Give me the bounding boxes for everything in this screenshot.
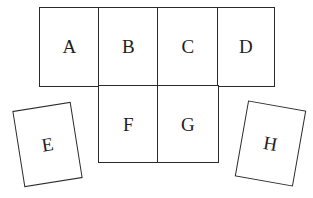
- panel-d: D: [217, 7, 275, 87]
- panel-g-label: G: [181, 115, 195, 134]
- panel-f-label: F: [123, 115, 134, 134]
- panel-a: A: [39, 7, 100, 87]
- panel-c-label: C: [181, 37, 194, 56]
- panel-b-label: B: [122, 37, 135, 56]
- panel-e-label: E: [40, 134, 54, 155]
- panel-h: H: [234, 100, 305, 186]
- panel-b: B: [98, 7, 159, 87]
- box-net-diagram: A B C D F G E H: [0, 0, 313, 198]
- panel-d-label: D: [239, 37, 253, 56]
- panel-f: F: [98, 85, 159, 163]
- panel-g: G: [157, 85, 219, 163]
- panel-a-label: A: [62, 37, 76, 56]
- panel-h-label: H: [262, 133, 279, 154]
- panel-c: C: [157, 7, 219, 87]
- panel-e: E: [12, 102, 82, 187]
